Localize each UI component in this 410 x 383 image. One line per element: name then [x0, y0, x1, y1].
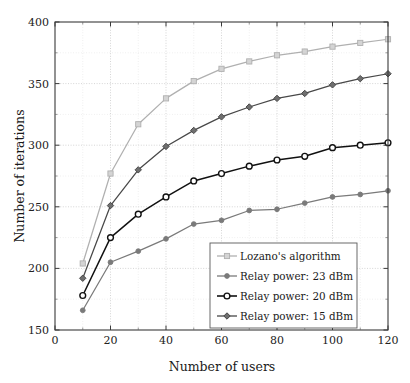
data-point-marker	[136, 249, 141, 254]
y-tick-label: 150	[28, 324, 49, 337]
y-axis-title: Number of iterations	[12, 109, 27, 242]
data-point-marker	[246, 163, 252, 169]
data-point-marker	[219, 218, 224, 223]
data-point-marker	[357, 142, 363, 148]
data-point-marker	[357, 75, 363, 81]
data-point-marker	[191, 79, 196, 84]
data-point-marker	[108, 171, 113, 176]
data-point-marker	[191, 222, 196, 227]
data-point-marker	[247, 59, 252, 64]
line-chart: 020406080100120150200250300350400 Lozano…	[0, 0, 410, 383]
data-point-marker	[330, 145, 336, 151]
chart-legend: Lozano's algorithmRelay power: 23 dBmRel…	[210, 243, 357, 328]
data-point-marker	[275, 207, 280, 212]
data-point-marker	[135, 211, 141, 217]
data-point-marker	[163, 194, 169, 200]
data-point-marker	[274, 53, 279, 58]
data-point-marker	[302, 153, 308, 159]
chart-container: 020406080100120150200250300350400 Lozano…	[0, 0, 410, 383]
data-point-marker	[274, 95, 280, 101]
data-point-marker	[219, 171, 225, 177]
legend-label: Relay power: 20 dBm	[240, 290, 353, 302]
x-tick-label: 80	[270, 334, 284, 347]
series-1	[80, 37, 390, 266]
data-point-marker	[330, 44, 335, 49]
data-point-marker	[358, 40, 363, 45]
legend-label: Relay power: 15 dBm	[240, 310, 353, 322]
data-point-marker	[302, 49, 307, 54]
y-tick-label: 400	[28, 16, 49, 29]
x-tick-label: 120	[378, 334, 399, 347]
x-axis-title: Number of users	[169, 359, 276, 374]
data-point-marker	[358, 192, 363, 197]
data-point-marker	[246, 104, 252, 110]
data-point-marker	[330, 195, 335, 200]
data-point-marker	[80, 275, 86, 281]
data-point-marker	[329, 82, 335, 88]
x-tick-label: 0	[52, 334, 59, 347]
y-tick-label: 250	[28, 201, 49, 214]
legend-label: Relay power: 23 dBm	[240, 270, 353, 282]
data-point-marker	[224, 293, 230, 299]
data-point-marker	[302, 90, 308, 96]
data-point-marker	[191, 127, 197, 133]
data-point-marker	[80, 261, 85, 266]
x-tick-label: 40	[159, 334, 173, 347]
data-point-marker	[163, 96, 168, 101]
x-tick-label: 20	[104, 334, 118, 347]
data-point-marker	[108, 235, 114, 241]
data-point-marker	[219, 66, 224, 71]
y-tick-label: 350	[28, 78, 49, 91]
data-point-marker	[136, 122, 141, 127]
data-point-marker	[108, 260, 113, 265]
data-point-marker	[274, 157, 280, 163]
legend-label: Lozano's algorithm	[240, 250, 341, 262]
data-point-marker	[224, 253, 229, 258]
data-point-marker	[164, 236, 169, 241]
data-point-marker	[80, 293, 86, 299]
data-point-marker	[225, 274, 230, 279]
y-tick-label: 300	[28, 139, 49, 152]
y-tick-label: 200	[28, 262, 49, 275]
x-tick-label: 100	[322, 334, 343, 347]
x-tick-label: 60	[215, 334, 229, 347]
data-point-marker	[302, 201, 307, 206]
data-point-marker	[191, 178, 197, 184]
data-point-marker	[80, 308, 85, 313]
data-point-marker	[247, 208, 252, 213]
